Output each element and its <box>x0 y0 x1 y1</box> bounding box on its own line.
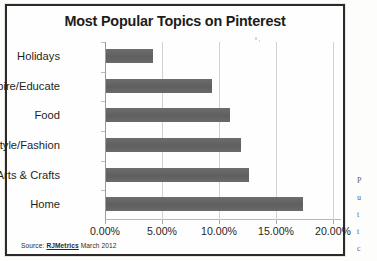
x-tick-mark <box>276 220 277 224</box>
bar-style-fashion <box>106 138 241 152</box>
bar-holidays <box>106 49 153 63</box>
side-text-line: P <box>357 172 377 189</box>
x-tick-label: 5.00% <box>135 225 189 237</box>
x-tick-label: 20.00% <box>306 225 360 237</box>
category-label: Style/Fashion <box>0 139 60 151</box>
bar-food <box>106 108 230 122</box>
bar-row <box>106 161 342 191</box>
source-label: Source: <box>21 242 44 249</box>
bar-arts-crafts <box>106 168 249 182</box>
scan-speckle <box>255 37 257 40</box>
bar-row <box>106 131 342 161</box>
x-tick-label: 15.00% <box>249 225 303 237</box>
adjacent-body-text-fragment: Puttc <box>357 172 377 257</box>
category-label: Home <box>0 198 60 210</box>
y-tick-mark <box>101 190 105 191</box>
bar-row <box>106 101 342 131</box>
y-tick-mark <box>101 101 105 102</box>
source-note: Source: RJMetrics March 2012 <box>21 242 117 249</box>
chart-title: Most Popular Topics on Pinterest <box>7 13 343 29</box>
side-text-line: t <box>357 223 377 240</box>
source-date: March 2012 <box>81 242 117 249</box>
chart-figure-frame: Most Popular Topics on Pinterest HomeArt… <box>5 4 345 256</box>
y-tick-mark <box>101 72 105 73</box>
x-tick-mark <box>105 220 106 224</box>
x-tick-mark <box>333 220 334 224</box>
category-label: Arts & Crafts <box>0 169 60 181</box>
scan-speckle <box>259 40 260 42</box>
category-label: Food <box>0 109 60 121</box>
y-tick-mark <box>101 131 105 132</box>
side-text-line: c <box>357 240 377 257</box>
bar-inspire-educate <box>106 79 212 93</box>
x-tick-label: 0.00% <box>78 225 132 237</box>
bar-home <box>106 197 303 211</box>
category-label: Inspire/Educate <box>0 80 60 92</box>
category-label: Holidays <box>0 50 60 62</box>
chart-plot-area <box>105 42 341 220</box>
source-name: RJMetrics <box>46 242 78 249</box>
x-tick-mark <box>219 220 220 224</box>
bar-row <box>106 72 342 102</box>
bar-row <box>106 42 342 72</box>
bar-row <box>106 190 342 220</box>
side-text-line: u <box>357 189 377 206</box>
x-tick-mark <box>162 220 163 224</box>
y-tick-mark <box>101 42 105 43</box>
document-page: Most Popular Topics on Pinterest HomeArt… <box>0 0 377 261</box>
side-text-line: t <box>357 206 377 223</box>
x-tick-label: 10.00% <box>192 225 246 237</box>
y-tick-mark <box>101 161 105 162</box>
